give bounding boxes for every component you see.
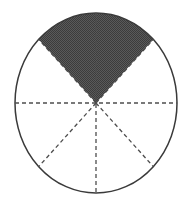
divider-diagonal-ll: [39, 103, 96, 167]
fraction-circle-diagram: [0, 0, 191, 209]
fraction-circle-svg: [0, 0, 191, 209]
divider-diagonal-lr: [96, 103, 153, 167]
